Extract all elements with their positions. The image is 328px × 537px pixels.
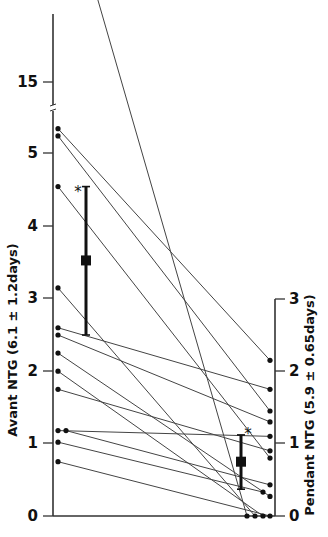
pair-line (58, 288, 255, 516)
before-point (55, 133, 60, 138)
during-point (260, 513, 265, 518)
chart-canvas: 012345150123 ** Avant NTG (6.1 ± 1.2days… (0, 0, 328, 537)
right-tick-label: 2 (289, 362, 299, 380)
pair-line (58, 442, 263, 492)
right-tick-label: 0 (289, 507, 299, 525)
before-mean-marker (81, 255, 91, 265)
before-point (55, 325, 60, 330)
pair-line (58, 136, 270, 411)
left-tick-label: 15 (17, 73, 38, 91)
during-point (244, 513, 249, 518)
during-point (267, 358, 272, 363)
right-axis-label: Pendant NTG (5.9 ± 0.65days) (302, 294, 317, 515)
during-point (267, 482, 272, 487)
right-tick-label: 1 (289, 434, 299, 452)
during-point (252, 513, 257, 518)
before-point (55, 351, 60, 356)
before-point (63, 428, 68, 433)
pair-line (58, 129, 270, 361)
before-point (55, 126, 60, 131)
pair-line (58, 328, 270, 390)
pair-line (58, 371, 263, 516)
left-axis-label: Avant NTG (6.1 ± 1.2days) (5, 243, 20, 437)
during-point (267, 419, 272, 424)
during-point (267, 513, 272, 518)
before-point (55, 459, 60, 464)
during-mean-marker (236, 457, 246, 467)
left-tick-label: 5 (28, 144, 38, 162)
before-point (55, 387, 60, 392)
during-point (267, 387, 272, 392)
pair-line (58, 353, 270, 496)
before-significance-marker: * (74, 183, 82, 201)
during-point (267, 434, 272, 439)
before-point (55, 184, 60, 189)
left-tick-label: 3 (28, 289, 38, 307)
axis-break-mark (50, 109, 56, 111)
pair-line (58, 335, 270, 422)
left-tick-label: 1 (28, 434, 38, 452)
during-point (267, 494, 272, 499)
axes: 012345150123 (17, 14, 299, 525)
during-point (260, 490, 265, 495)
before-point (55, 369, 60, 374)
during-point (267, 408, 272, 413)
before-point (55, 332, 60, 337)
during-point (267, 448, 272, 453)
pair-line (58, 389, 270, 451)
left-tick-label: 0 (28, 507, 38, 525)
right-tick-label: 3 (289, 290, 299, 308)
left-tick-label: 4 (28, 217, 38, 235)
during-point (267, 455, 272, 460)
before-point (55, 285, 60, 290)
paired-ntg-chart: 012345150123 ** Avant NTG (6.1 ± 1.2days… (0, 0, 328, 537)
left-tick-label: 2 (28, 362, 38, 380)
before-point (55, 428, 60, 433)
during-significance-marker: * (244, 425, 252, 443)
before-point (55, 440, 60, 445)
